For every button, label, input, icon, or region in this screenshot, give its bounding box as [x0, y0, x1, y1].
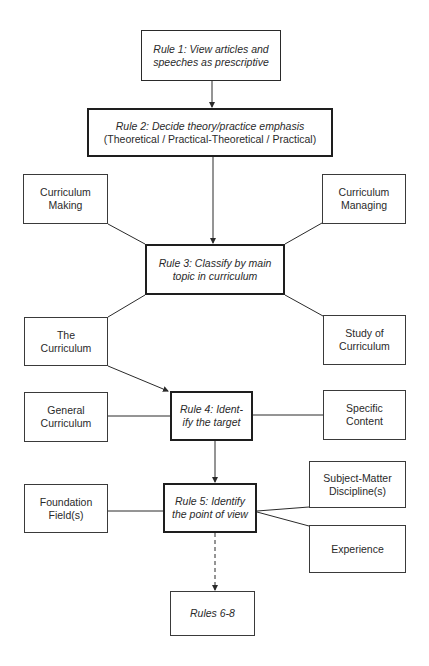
subject-matter-line-1: Subject-Matter: [323, 472, 391, 485]
rule-2-options: (Theoretical / Practical-Theoretical / P…: [104, 133, 316, 146]
specific-content-line-2: Content: [346, 415, 383, 428]
rule-4-box: Rule 4: Ident- ify the target: [170, 391, 253, 441]
rule-1-line-2: speeches as prescriptive: [153, 56, 269, 69]
study-of-curriculum-line-2: Curriculum: [339, 340, 390, 353]
experience-label: Experience: [331, 543, 384, 556]
specific-content-line-1: Specific: [346, 402, 383, 415]
foundation-fields-line-2: Field(s): [48, 509, 83, 522]
specific-content-box: Specific Content: [323, 390, 406, 440]
subject-matter-box: Subject-Matter Discipline(s): [309, 461, 406, 508]
rule-5-box: Rule 5: Identify the point of view: [163, 483, 257, 533]
rule-3-line-1: Rule 3: Classify by main: [159, 257, 272, 270]
study-of-curriculum-line-1: Study of: [345, 327, 384, 340]
rules-6-8-label: Rules 6-8: [190, 607, 235, 620]
experience-box: Experience: [309, 525, 406, 573]
study-of-curriculum-box: Study of Curriculum: [323, 315, 406, 365]
rule-1-line-1: Rule 1: View articles and: [153, 43, 268, 56]
general-curriculum-line-1: General: [47, 404, 84, 417]
general-curriculum-line-2: Curriculum: [41, 417, 92, 430]
rule-3-box: Rule 3: Classify by main topic in curric…: [145, 244, 285, 295]
the-curriculum-box: The Curriculum: [24, 317, 108, 366]
rule-4-line-1: Rule 4: Ident-: [180, 403, 243, 416]
foundation-fields-box: Foundation Field(s): [24, 484, 108, 533]
rules-6-8-box: Rules 6-8: [170, 591, 255, 636]
rule-2-box: Rule 2: Decide theory/practice emphasis …: [87, 108, 333, 157]
rule-2-line-1: Rule 2: Decide theory/practice emphasis: [116, 120, 305, 133]
rule-5-line-2: the point of view: [172, 508, 248, 521]
curriculum-making-box: Curriculum Making: [23, 174, 108, 224]
rule-5-line-1: Rule 5: Identify: [175, 495, 245, 508]
general-curriculum-box: General Curriculum: [24, 392, 108, 442]
the-curriculum-line-1: The: [57, 329, 75, 342]
subject-matter-line-2: Discipline(s): [329, 485, 386, 498]
curriculum-managing-line-1: Curriculum: [339, 186, 390, 199]
rule-1-box: Rule 1: View articles and speeches as pr…: [141, 30, 281, 81]
curriculum-managing-line-2: Managing: [341, 199, 387, 212]
the-curriculum-line-2: Curriculum: [41, 342, 92, 355]
curriculum-making-line-2: Making: [49, 199, 83, 212]
rule-3-line-2: topic in curriculum: [173, 270, 258, 283]
foundation-fields-line-1: Foundation: [40, 496, 93, 509]
curriculum-making-line-1: Curriculum: [40, 186, 91, 199]
rule-4-line-2: ify the target: [183, 416, 241, 429]
curriculum-managing-box: Curriculum Managing: [322, 174, 406, 224]
